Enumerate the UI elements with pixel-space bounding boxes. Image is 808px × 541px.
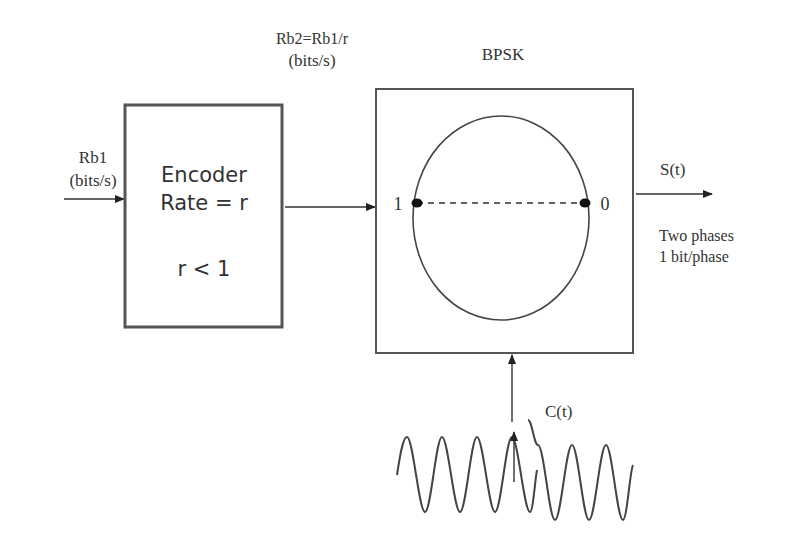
constellation-label-one: 1 xyxy=(394,194,403,214)
carrier-label: C(t) xyxy=(545,402,572,421)
intermediate-unit-label: (bits/s) xyxy=(288,51,335,70)
encoder-condition: r < 1 xyxy=(178,257,231,281)
encoder-rate: Rate = r xyxy=(160,191,248,215)
intermediate-rate-label: Rb2=Rb1/r xyxy=(276,30,349,47)
encoder-title: Encoder xyxy=(161,163,247,187)
output-note-line1: Two phases xyxy=(659,227,734,245)
encoder-block xyxy=(125,105,282,327)
output-signal-label: S(t) xyxy=(660,160,686,179)
constellation-point-zero xyxy=(580,199,591,208)
modulator-title: BPSK xyxy=(482,45,525,64)
bpsk-block-diagram: Rb1 (bits/s) Encoder Rate = r r < 1 Rb2=… xyxy=(0,0,808,541)
carrier-waveform-shifted xyxy=(528,420,633,520)
input-rate-label: Rb1 xyxy=(79,148,107,167)
output-note-line2: 1 bit/phase xyxy=(659,248,729,266)
input-unit-label: (bits/s) xyxy=(69,171,116,190)
modulator-block xyxy=(376,89,633,353)
constellation-point-one xyxy=(412,199,423,208)
carrier-waveform-primary xyxy=(397,437,537,512)
constellation-label-zero: 0 xyxy=(601,194,610,214)
